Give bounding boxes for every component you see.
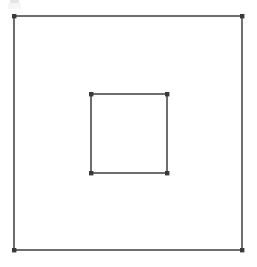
outer-top-right-vertex <box>240 14 244 18</box>
nested-squares-figure <box>0 0 257 267</box>
figure-background <box>0 0 257 267</box>
outer-bottom-left-vertex <box>12 248 16 252</box>
outer-top-left-vertex <box>12 14 16 18</box>
outer-bottom-right-vertex <box>240 248 244 252</box>
inner-top-right-vertex <box>165 92 169 96</box>
diagram-canvas <box>0 0 257 267</box>
top-left-smudge-icon <box>10 0 19 3</box>
inner-bottom-right-vertex <box>165 171 169 175</box>
top-left-smudge-halo-icon <box>8 3 21 9</box>
inner-top-left-vertex <box>89 92 93 96</box>
inner-bottom-left-vertex <box>89 171 93 175</box>
